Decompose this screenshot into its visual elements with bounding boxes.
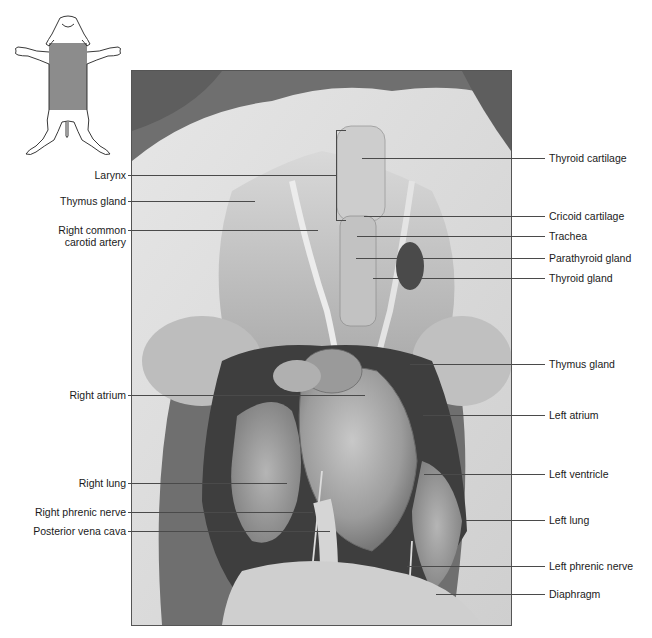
label-parathyroid-gland: Parathyroid gland	[549, 252, 631, 264]
leader-larynx	[128, 175, 337, 176]
leader-right-atrium	[128, 395, 365, 396]
leader-posterior-vena-cava	[128, 531, 330, 532]
leader-right-lung	[128, 483, 287, 484]
label-right-phrenic-nerve: Right phrenic nerve	[35, 506, 126, 518]
label-larynx: Larynx	[94, 169, 126, 181]
leader-thymus-gland-right	[410, 364, 545, 365]
label-line-2: carotid artery	[58, 236, 126, 248]
leader-larynx-bracket-top	[336, 130, 346, 131]
label-thymus-gland-left: Thymus gland	[60, 195, 126, 207]
label-left-atrium: Left atrium	[549, 409, 599, 421]
leader-parathyroid-gland	[356, 258, 545, 259]
leader-thymus-gland-left	[128, 201, 255, 202]
label-diaphragm: Diaphragm	[549, 588, 600, 600]
dissection-photo	[131, 70, 512, 626]
leader-left-phrenic-nerve	[407, 566, 545, 567]
leader-left-ventricle	[424, 474, 545, 475]
shaded-region-icon	[49, 43, 87, 110]
leader-thyroid-cartilage	[362, 158, 545, 159]
label-thymus-gland-right: Thymus gland	[549, 358, 615, 370]
label-cricoid-cartilage: Cricoid cartilage	[549, 210, 624, 222]
leader-larynx-bracket	[336, 130, 337, 221]
leader-left-atrium	[423, 415, 545, 416]
leader-cricoid-cartilage	[364, 216, 545, 217]
label-trachea: Trachea	[549, 230, 587, 242]
label-thyroid-cartilage: Thyroid cartilage	[549, 152, 627, 164]
label-posterior-vena-cava: Posterior vena cava	[33, 525, 126, 537]
leader-diaphragm	[436, 594, 545, 595]
label-line-1: Right common	[58, 224, 126, 236]
label-right-lung: Right lung	[79, 477, 126, 489]
label-right-common-carotid-artery: Right common carotid artery	[58, 224, 126, 248]
leader-trachea	[357, 236, 545, 237]
label-left-lung: Left lung	[549, 514, 589, 526]
label-left-phrenic-nerve: Left phrenic nerve	[549, 560, 633, 572]
leader-left-lung	[466, 520, 545, 521]
leader-right-phrenic-nerve	[128, 512, 313, 513]
orientation-pig-icon	[0, 10, 130, 170]
leader-thyroid-gland	[373, 278, 545, 279]
label-left-ventricle: Left ventricle	[549, 468, 609, 480]
label-thyroid-gland: Thyroid gland	[549, 272, 613, 284]
leader-right-common-carotid-artery	[128, 230, 318, 231]
leader-larynx-bracket-bottom	[336, 220, 346, 221]
label-right-atrium: Right atrium	[69, 389, 126, 401]
